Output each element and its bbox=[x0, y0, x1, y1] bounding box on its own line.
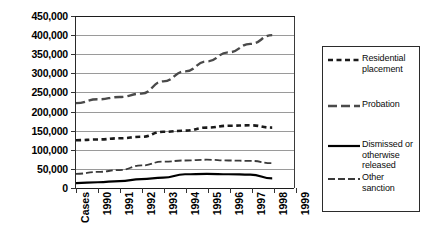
x-axis-tick-label: 1990 bbox=[101, 190, 113, 213]
x-axis-tick-label-text: 1999 bbox=[299, 192, 311, 215]
legend-label: Dismissed or otherwise released bbox=[362, 139, 419, 171]
y-axis-tick-label: 100,000 bbox=[31, 144, 68, 156]
x-axis-tick bbox=[296, 188, 297, 193]
y-axis-tick-label: 50,000 bbox=[37, 163, 68, 175]
solid-swatch bbox=[327, 140, 361, 152]
dash-swatch bbox=[327, 173, 361, 185]
x-axis-tick-label-text: 1996 bbox=[233, 192, 245, 215]
x-axis-tick-label-text: 1992 bbox=[145, 192, 157, 215]
x-axis-tick-label-text: 1998 bbox=[277, 192, 289, 215]
legend-item[interactable]: Residential placement bbox=[327, 53, 419, 74]
x-axis-tick-label-text: 1991 bbox=[123, 192, 135, 215]
legend-item[interactable]: Dismissed or otherwise released bbox=[327, 139, 419, 171]
x-axis-tick-label: 1999 bbox=[299, 190, 311, 213]
line-chart: 050,000100,000150,000200,000250,000300,0… bbox=[0, 0, 424, 251]
y-axis-tick-label: 0 bbox=[62, 182, 68, 194]
dotted-dash-swatch bbox=[327, 54, 361, 66]
x-axis-tick-label: 1996 bbox=[233, 190, 245, 213]
legend-label: Residential placement bbox=[362, 53, 419, 74]
x-axis-tick-label: 1992 bbox=[145, 190, 157, 213]
y-axis-tick-label: 300,000 bbox=[31, 67, 68, 79]
plot-area bbox=[75, 16, 295, 188]
legend-item[interactable]: Probation bbox=[327, 99, 419, 112]
y-axis-tick-label: 150,000 bbox=[31, 125, 68, 137]
x-axis-tick-label-text: 1990 bbox=[101, 192, 113, 215]
x-axis-tick-label: Cases bbox=[79, 190, 91, 221]
x-axis-tick-label: 1997 bbox=[255, 190, 267, 213]
series-line bbox=[76, 174, 272, 183]
y-axis-labels: 050,000100,000150,000200,000250,000300,0… bbox=[0, 0, 72, 251]
legend-label: Other sanction bbox=[362, 172, 419, 193]
x-axis-tick-label-text: 1997 bbox=[255, 192, 267, 215]
x-axis-tick-label: 1991 bbox=[123, 190, 135, 213]
long-dash-swatch bbox=[327, 100, 361, 112]
x-axis-tick-label: 1995 bbox=[211, 190, 223, 213]
y-axis-tick-label: 350,000 bbox=[31, 48, 68, 60]
x-axis-tick-label-text: 1995 bbox=[211, 192, 223, 215]
series-line bbox=[76, 160, 272, 174]
x-axis-tick-label: 1998 bbox=[277, 190, 289, 213]
x-axis-tick-label-text: Cases bbox=[79, 192, 91, 223]
legend-item[interactable]: Other sanction bbox=[327, 172, 419, 193]
series-layer bbox=[76, 16, 294, 188]
x-axis-tick-label: 1994 bbox=[189, 190, 201, 213]
x-axis-tick-label-text: 1993 bbox=[167, 192, 179, 215]
series-line bbox=[76, 35, 272, 103]
legend-label: Probation bbox=[362, 99, 400, 110]
y-axis-tick-label: 200,000 bbox=[31, 106, 68, 118]
chart-legend: Residential placementProbationDismissed … bbox=[322, 46, 420, 212]
x-axis-tick-label-text: 1994 bbox=[189, 192, 201, 215]
x-axis-tick-label: 1993 bbox=[167, 190, 179, 213]
x-axis-labels: Cases19901991199219931994199519961997199… bbox=[75, 190, 295, 251]
y-axis-tick-label: 450,000 bbox=[31, 10, 68, 22]
y-axis-tick-label: 400,000 bbox=[31, 29, 68, 41]
y-axis-tick-label: 250,000 bbox=[31, 86, 68, 98]
plot-top-border bbox=[75, 16, 295, 17]
x-axis-line bbox=[76, 188, 294, 189]
series-line bbox=[76, 125, 272, 140]
